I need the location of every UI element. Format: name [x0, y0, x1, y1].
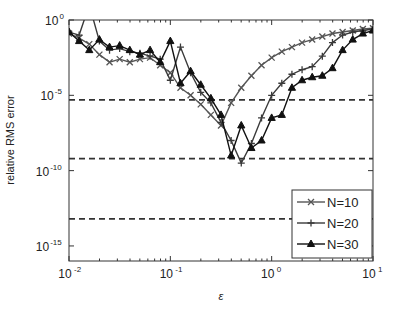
triangle-marker-icon	[238, 121, 245, 128]
x-marker-icon	[259, 62, 265, 68]
x-marker-icon	[248, 73, 254, 79]
y-tick-label: 10	[45, 14, 59, 28]
plus-marker-icon	[299, 66, 306, 73]
x-tick-exponent: -1	[175, 265, 183, 274]
triangle-marker-icon	[258, 137, 265, 144]
chart-container: 10-210-110010110010-510-1010-15 N=10N=20…	[0, 0, 397, 314]
y-tick-exponent: 0	[59, 12, 64, 21]
x-marker-icon	[198, 101, 204, 107]
x-tick-exponent: 0	[277, 265, 282, 274]
data-series	[65, 1, 376, 166]
x-marker-icon	[96, 52, 102, 58]
triangle-marker-icon	[288, 84, 295, 91]
legend-label: N=10	[327, 195, 358, 210]
y-tick-exponent: -10	[50, 163, 62, 172]
triangle-marker-icon	[167, 37, 174, 44]
y-tick-exponent: -15	[50, 238, 62, 247]
y-tick-label: 10	[36, 240, 50, 254]
legend: N=10N=20N=30	[292, 190, 372, 258]
x-marker-icon	[208, 112, 214, 118]
x-tick-exponent: -2	[74, 265, 82, 274]
triangle-marker-icon	[329, 64, 336, 71]
series-line	[69, 5, 373, 163]
x-marker-icon	[228, 100, 234, 106]
x-tick-label: 10	[58, 267, 72, 281]
rms-error-plot: 10-210-110010110010-510-1010-15 N=10N=20…	[0, 0, 397, 314]
y-axis-label: relative RMS error	[4, 95, 16, 185]
legend-label: N=30	[327, 237, 358, 252]
x-marker-icon	[289, 44, 295, 50]
plus-marker-icon	[238, 160, 245, 167]
legend-label: N=20	[327, 216, 358, 231]
triangle-marker-icon	[319, 72, 326, 79]
y-tick-label: 10	[40, 89, 54, 103]
plus-marker-icon	[86, 1, 93, 8]
x-tick-exponent: 1	[378, 265, 383, 274]
x-tick-label: 10	[160, 267, 174, 281]
y-tick-exponent: -5	[55, 87, 63, 96]
y-tick-label: 10	[36, 165, 50, 179]
plus-marker-icon	[258, 114, 265, 121]
x-marker-icon	[188, 92, 194, 98]
triangle-marker-icon	[278, 111, 285, 118]
plus-marker-icon	[177, 44, 184, 51]
x-marker-icon	[279, 49, 285, 55]
x-tick-label: 10	[261, 267, 275, 281]
triangle-marker-icon	[96, 36, 103, 43]
x-axis-label: ε	[219, 290, 224, 302]
x-marker-icon	[269, 55, 275, 61]
triangle-marker-icon	[116, 42, 123, 49]
plus-marker-icon	[167, 77, 174, 84]
triangle-marker-icon	[146, 46, 153, 53]
x-marker-icon	[238, 85, 244, 91]
triangle-marker-icon	[228, 152, 235, 159]
series-n-20	[66, 1, 377, 166]
x-tick-label: 10	[362, 267, 376, 281]
